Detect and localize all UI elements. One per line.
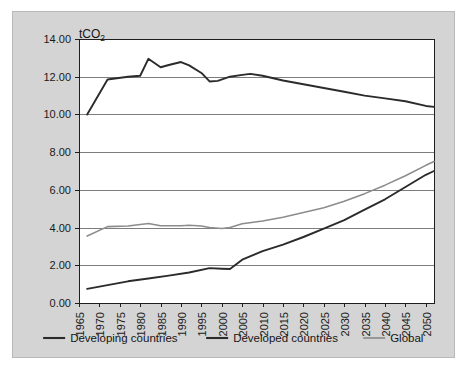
y-tick-label: 6.00 <box>50 184 71 196</box>
x-tick-label: 1995 <box>196 312 208 336</box>
legend-item-global[interactable]: Global <box>363 332 423 344</box>
y-axis-tick-labels: 0.002.004.006.008.0010.0012.0014.00 <box>43 33 71 309</box>
chart-figure: 0.002.004.006.008.0010.0012.0014.00 1965… <box>12 11 455 358</box>
y-tick-label: 10.00 <box>43 108 71 120</box>
unit-label-subscript: 2 <box>100 33 105 43</box>
y-axis-ticks <box>75 40 79 304</box>
y-axis-unit-label: tCO2 <box>79 27 105 43</box>
unit-label-base: tCO <box>79 27 100 41</box>
x-tick-label: 2035 <box>360 312 372 336</box>
y-tick-label: 0.00 <box>50 297 71 309</box>
x-tick-label: 2030 <box>339 312 351 336</box>
y-tick-label: 2.00 <box>50 259 71 271</box>
y-tick-label: 8.00 <box>50 146 71 158</box>
y-tick-label: 12.00 <box>43 71 71 83</box>
legend-label: Developing countries <box>70 332 178 344</box>
legend-label: Global <box>390 332 423 344</box>
legend-label: Developed countries <box>233 332 338 344</box>
emissions-line-chart: 0.002.004.006.008.0010.0012.0014.00 1965… <box>13 12 456 359</box>
plot-background <box>79 39 434 303</box>
y-tick-label: 4.00 <box>50 222 71 234</box>
legend-item-developing-countries[interactable]: Developing countries <box>43 332 178 344</box>
y-tick-label: 14.00 <box>43 33 71 45</box>
x-tick-label: 2000 <box>217 312 229 336</box>
